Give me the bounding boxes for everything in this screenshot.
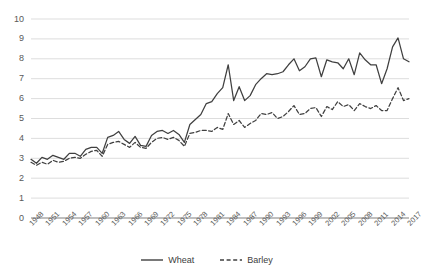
series-line-barley (31, 88, 409, 166)
y-axis-tick-label: 8 (4, 54, 24, 63)
legend-item-barley: Barley (220, 255, 273, 265)
y-axis-tick-label: 3 (4, 154, 24, 163)
y-axis-tick-label: 1 (4, 194, 24, 203)
series-line-wheat (31, 38, 409, 163)
legend-label-barley: Barley (247, 255, 273, 265)
y-axis-tick-label: 4 (4, 134, 24, 143)
legend-swatch-wheat (141, 256, 163, 264)
y-axis-tick-label: 2 (4, 174, 24, 183)
y-axis-tick-label: 9 (4, 34, 24, 43)
y-axis-tick-label: 0 (4, 214, 24, 223)
y-axis-tick-label: 7 (4, 74, 24, 83)
y-axis-tick-label: 10 (4, 15, 24, 24)
y-axis-tick-label: 6 (4, 94, 24, 103)
legend-swatch-barley (220, 256, 242, 264)
legend-label-wheat: Wheat (168, 255, 194, 265)
legend-item-wheat: Wheat (141, 255, 194, 265)
y-axis-tick-label: 5 (4, 114, 24, 123)
chart-legend: Wheat Barley (0, 255, 414, 265)
